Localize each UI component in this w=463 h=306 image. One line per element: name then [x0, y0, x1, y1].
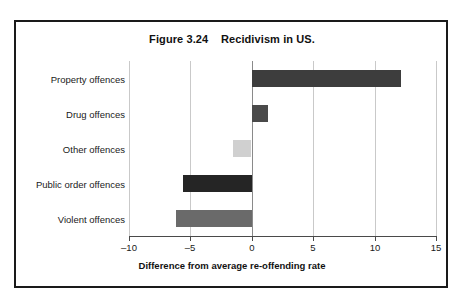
bar [233, 140, 251, 157]
y-axis-label: Violent offences [17, 214, 125, 225]
y-axis-category-labels: Property offencesDrug offencesOther offe… [16, 61, 125, 236]
gridline-15 [436, 61, 437, 236]
gridline-5 [313, 61, 314, 236]
bar [183, 175, 252, 192]
x-tick-neg10 [129, 236, 130, 241]
x-tick-10 [375, 236, 376, 241]
x-tick-label: 5 [293, 242, 333, 253]
x-tick-label: 10 [355, 242, 395, 253]
gridline-neg10 [129, 61, 130, 236]
y-axis-label: Public order offences [17, 179, 125, 190]
x-tick-label: –10 [109, 242, 149, 253]
x-tick-5 [313, 236, 314, 241]
x-tick-label: –5 [170, 242, 210, 253]
x-axis-line [129, 236, 437, 237]
y-axis-label: Property offences [17, 74, 125, 85]
figure-container: Figure 3.24 Recidivism in US. Property o… [0, 0, 463, 306]
x-tick-label: 15 [416, 242, 456, 253]
x-tick-neg5 [190, 236, 191, 241]
x-tick-0 [252, 236, 253, 241]
bar [176, 210, 252, 227]
figure-frame: Figure 3.24 Recidivism in US. Property o… [14, 20, 448, 288]
bar [252, 105, 268, 122]
y-axis-label: Other offences [17, 144, 125, 155]
x-axis-title: Difference from average re-offending rat… [16, 260, 448, 271]
chart-title: Figure 3.24 Recidivism in US. [16, 33, 448, 45]
gridline-0 [252, 61, 253, 236]
plot-area [129, 61, 436, 236]
x-tick-15 [436, 236, 437, 241]
bar [252, 70, 401, 87]
y-axis-label: Drug offences [17, 109, 125, 120]
x-tick-label: 0 [232, 242, 272, 253]
gridline-10 [375, 61, 376, 236]
